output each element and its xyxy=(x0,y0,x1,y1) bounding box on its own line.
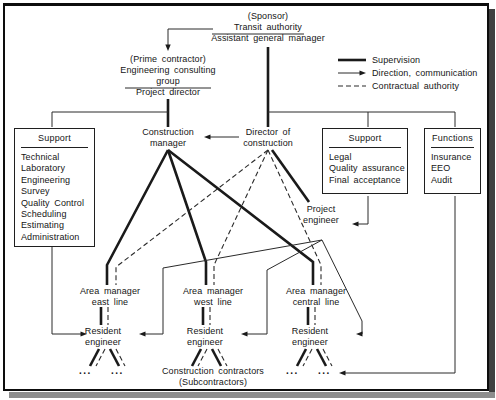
legend-label-direction: Direction, communication xyxy=(372,68,477,79)
list-item: Scheduling xyxy=(21,209,92,220)
director-of-construction-node: Director of construction xyxy=(228,127,308,149)
support-right-box: Support Legal Quality assurance Final ac… xyxy=(322,128,408,194)
area-manager-east-line2: east line xyxy=(68,297,152,308)
project-engineer-line1: Project xyxy=(291,204,351,215)
construction-manager-line2: manager xyxy=(128,138,208,149)
resident-engineer-line1: Resident xyxy=(275,326,345,337)
list-item: Estimating xyxy=(21,220,92,231)
director-line2: construction xyxy=(228,138,308,149)
project-engineer-line2: engineer xyxy=(291,215,351,226)
area-manager-west-line2: west line xyxy=(171,297,255,308)
list-item: Final acceptance xyxy=(329,175,405,186)
list-item: EEO xyxy=(431,163,478,174)
area-manager-central-node: Area manager central line xyxy=(274,286,358,308)
director-line1: Director of xyxy=(228,127,308,138)
area-manager-east-line1: Area manager xyxy=(68,286,152,297)
resident-engineer-line1: Resident xyxy=(68,326,138,337)
list-item: Legal xyxy=(329,152,405,163)
sponsor-role: Assistant general manager xyxy=(188,33,348,44)
functions-items: Insurance EEO Audit xyxy=(425,148,480,186)
list-item: Laboratory xyxy=(21,163,92,174)
org-chart: (Sponsor) Transit authority Assistant ge… xyxy=(0,0,496,400)
prime-contractor-name-line2: group xyxy=(103,76,233,87)
resident-engineer-line2: engineer xyxy=(68,337,138,348)
list-item: Engineering xyxy=(21,175,92,186)
sponsor-name: Transit authority xyxy=(188,22,348,33)
support-left-box: Support Technical Laboratory Engineering… xyxy=(14,128,95,247)
area-manager-west-node: Area manager west line xyxy=(171,286,255,308)
subcontractors-ellipsis: ... xyxy=(79,366,92,376)
subcontractors-ellipsis: ... xyxy=(111,366,124,376)
resident-engineer-east-node: Resident engineer xyxy=(68,326,138,348)
construction-manager-node: Construction manager xyxy=(128,127,208,149)
resident-engineer-west-node: Resident engineer xyxy=(170,326,240,348)
subcontractors-ellipsis: ... xyxy=(286,366,299,376)
prime-contractor-tag: (Prime contractor) xyxy=(103,54,233,65)
project-engineer-node: Project engineer xyxy=(291,204,351,226)
support-right-title: Support xyxy=(329,133,401,148)
area-manager-central-line1: Area manager xyxy=(274,286,358,297)
prime-contractor-node: (Prime contractor) Engineering consultin… xyxy=(103,54,233,98)
list-item: Survey xyxy=(21,186,92,197)
list-item: Audit xyxy=(431,175,478,186)
sponsor-tag: (Sponsor) xyxy=(188,11,348,22)
list-item: Insurance xyxy=(431,152,478,163)
resident-engineer-central-node: Resident engineer xyxy=(275,326,345,348)
support-left-title: Support xyxy=(21,133,88,148)
legend-label-supervision: Supervision xyxy=(372,55,420,66)
functions-box: Functions Insurance EEO Audit xyxy=(424,128,481,194)
list-item: Quality assurance xyxy=(329,163,405,174)
functions-title: Functions xyxy=(431,133,474,148)
legend-symbols xyxy=(338,60,366,86)
contractors-line2: (Subcontractors) xyxy=(143,377,283,388)
list-item: Quality Control xyxy=(21,198,92,209)
sponsor-node: (Sponsor) Transit authority Assistant ge… xyxy=(188,11,348,44)
resident-engineer-line2: engineer xyxy=(275,337,345,348)
list-item: Technical xyxy=(21,152,92,163)
area-manager-central-line2: central line xyxy=(274,297,358,308)
resident-engineer-line2: engineer xyxy=(170,337,240,348)
prime-contractor-role: Project director xyxy=(103,87,233,98)
construction-manager-line1: Construction xyxy=(128,127,208,138)
area-manager-east-node: Area manager east line xyxy=(68,286,152,308)
area-manager-west-line1: Area manager xyxy=(171,286,255,297)
subcontractors-ellipsis: ... xyxy=(318,366,331,376)
contractors-line1: Construction contractors xyxy=(143,366,283,377)
support-right-items: Legal Quality assurance Final acceptance xyxy=(323,148,407,186)
resident-engineer-line1: Resident xyxy=(170,326,240,337)
construction-contractors-node: Construction contractors (Subcontractors… xyxy=(143,366,283,387)
legend-label-contractual: Contractual authority xyxy=(372,81,459,92)
prime-contractor-name-line1: Engineering consulting xyxy=(103,65,233,76)
support-left-items: Technical Laboratory Engineering Survey … xyxy=(15,148,94,243)
list-item: Administration xyxy=(21,232,92,243)
